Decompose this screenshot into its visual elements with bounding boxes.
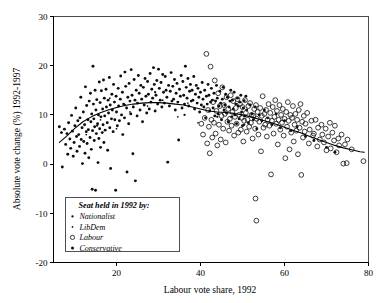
data-point xyxy=(95,98,98,101)
data-point xyxy=(89,92,92,95)
data-point xyxy=(94,109,97,112)
legend-title: Seat held in 1992 by: xyxy=(79,201,150,210)
y-axis-tick-label: 0 xyxy=(43,159,48,169)
data-point xyxy=(97,161,100,164)
data-point xyxy=(83,123,86,126)
data-point xyxy=(118,119,121,122)
data-point xyxy=(243,124,245,126)
data-point xyxy=(153,83,156,86)
data-point xyxy=(165,96,168,99)
data-point xyxy=(105,88,108,91)
data-point xyxy=(117,87,120,90)
data-point xyxy=(84,152,87,155)
data-point xyxy=(203,89,206,92)
data-point xyxy=(113,101,116,104)
data-point xyxy=(68,138,71,141)
data-point xyxy=(169,90,172,93)
chart-background xyxy=(0,0,383,303)
data-point xyxy=(176,82,179,85)
legend-label-labour: Labour xyxy=(79,233,104,242)
data-point xyxy=(113,118,116,121)
data-point xyxy=(128,100,131,103)
data-point xyxy=(213,114,216,117)
data-point xyxy=(312,139,315,142)
data-point xyxy=(85,104,88,107)
data-point xyxy=(142,86,145,89)
data-point xyxy=(202,98,205,101)
chart-legend[interactable]: Seat held in 1992 by:NationalistLibDemLa… xyxy=(66,198,180,253)
data-point xyxy=(98,80,101,83)
data-point xyxy=(87,156,90,159)
data-point xyxy=(78,145,81,148)
data-point xyxy=(87,128,90,131)
data-point xyxy=(212,92,215,95)
data-point xyxy=(220,118,223,121)
data-point xyxy=(76,119,79,122)
data-point xyxy=(147,93,150,96)
data-point xyxy=(112,83,115,86)
data-point xyxy=(82,111,85,114)
data-point xyxy=(152,66,155,69)
data-point xyxy=(91,129,94,132)
data-point xyxy=(177,116,179,118)
data-point xyxy=(164,75,167,78)
data-point xyxy=(179,95,182,98)
data-point xyxy=(103,114,106,117)
data-point xyxy=(121,91,124,94)
legend-label-nationalist: Nationalist xyxy=(79,212,116,221)
data-point xyxy=(141,120,144,123)
data-point xyxy=(139,109,142,112)
data-point xyxy=(107,99,110,102)
data-point xyxy=(212,107,215,110)
legend-label-conservative: Conservative xyxy=(80,244,123,253)
data-point xyxy=(67,121,70,124)
data-point xyxy=(110,117,113,120)
data-point xyxy=(185,86,188,89)
x-axis-tick-label: 80 xyxy=(364,268,374,278)
data-point xyxy=(129,112,132,115)
data-point xyxy=(115,111,118,114)
y-axis-title: Absolute vote change (%) 1992-1997 xyxy=(12,68,23,211)
data-point xyxy=(102,123,105,126)
data-point xyxy=(107,111,110,114)
data-point xyxy=(144,95,147,98)
legend-marker-conservative xyxy=(71,246,74,249)
data-point xyxy=(109,97,111,99)
data-point xyxy=(81,126,84,129)
chart-figure: 3020100-10-2020406080 Labour vote share,… xyxy=(0,0,383,303)
data-point xyxy=(223,109,226,112)
data-point xyxy=(88,100,91,103)
data-point xyxy=(82,140,85,143)
data-point xyxy=(99,101,102,104)
data-point xyxy=(105,106,108,109)
data-point xyxy=(93,139,96,142)
data-point xyxy=(74,107,77,110)
data-point xyxy=(201,81,204,84)
data-point xyxy=(154,91,156,93)
data-point xyxy=(205,95,208,98)
data-point xyxy=(73,141,76,144)
y-axis-tick-label: -20 xyxy=(36,258,48,268)
data-point xyxy=(207,94,210,97)
data-point xyxy=(166,161,169,164)
data-point xyxy=(112,130,115,133)
data-point xyxy=(233,91,236,94)
data-point xyxy=(197,87,200,90)
data-point xyxy=(143,104,146,107)
y-axis-tick-label: 10 xyxy=(39,110,49,120)
data-point xyxy=(244,95,247,98)
data-point xyxy=(206,103,209,106)
x-axis-tick-label: 40 xyxy=(196,268,206,278)
data-point xyxy=(90,148,93,151)
data-point xyxy=(108,76,111,79)
legend-label-libdem: LibDem xyxy=(79,223,106,232)
data-point xyxy=(135,89,138,92)
data-point xyxy=(95,132,98,135)
data-point xyxy=(196,102,199,105)
y-axis-tick-label: 20 xyxy=(39,61,49,71)
data-point xyxy=(160,106,163,109)
data-point xyxy=(100,119,102,121)
data-point xyxy=(176,101,179,104)
data-point xyxy=(86,142,89,145)
data-point xyxy=(136,114,139,117)
